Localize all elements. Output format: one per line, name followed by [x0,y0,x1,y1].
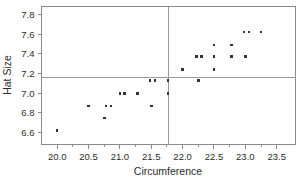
y-axis-tick-labels: 6.66.87.07.27.47.67.8 [21,9,34,138]
data-point [248,31,251,34]
y-tick-label: 7.0 [21,88,34,99]
data-point [230,44,233,47]
data-point [260,31,263,34]
data-point [197,79,200,82]
data-point [150,105,153,108]
x-axis-tick-labels: 20.020.521.021.522.022.523.023.5 [48,151,286,162]
y-tick-label: 7.6 [21,29,34,40]
x-tick-label: 21.5 [142,151,161,162]
data-point [136,92,139,95]
data-point [123,92,126,95]
x-tick-label: 22.0 [173,151,192,162]
y-tick-label: 6.8 [21,107,34,118]
x-axis-ticks [57,145,277,149]
data-point [181,68,184,71]
data-point [195,55,198,58]
data-point [213,44,216,47]
data-point [119,92,122,95]
plot-canvas: 20.020.521.021.522.022.523.023.5 6.66.87… [0,0,302,179]
data-point [213,55,216,58]
y-tick-label: 7.4 [21,48,34,59]
x-tick-label: 21.0 [111,151,130,162]
x-axis-title: Circumference [134,165,202,177]
reference-lines [42,7,296,145]
x-tick-label: 20.5 [79,151,98,162]
x-tick-label: 23.0 [236,151,255,162]
data-point [167,92,170,95]
scatter-plot-figure: 20.020.521.021.522.022.523.023.5 6.66.87… [0,0,302,179]
y-tick-label: 6.6 [21,127,34,138]
y-axis-title: Hat Size [1,55,13,95]
y-tick-label: 7.2 [21,68,34,79]
x-tick-label: 20.0 [48,151,67,162]
data-point [167,79,170,82]
data-point [213,68,216,71]
y-axis-ticks [38,14,42,132]
data-point [87,105,90,108]
data-point [230,55,233,58]
x-tick-label: 22.5 [205,151,224,162]
data-point [154,79,157,82]
data-points [56,31,262,132]
data-point [149,79,152,82]
data-point [110,105,113,108]
data-point [56,129,59,132]
data-point [105,105,108,108]
x-tick-label: 23.5 [267,151,286,162]
y-tick-label: 7.8 [21,9,34,20]
data-point [200,55,203,58]
data-point [243,31,246,34]
data-point [244,55,247,58]
data-point [103,117,106,120]
